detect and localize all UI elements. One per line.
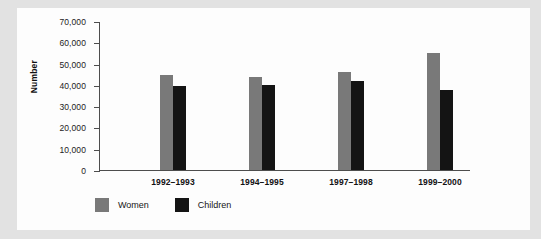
bar-group: 1992–1993 [160,21,186,170]
bar-chart: Number 70,000 60,000 50,000 40,000 [17,8,530,230]
bar-children-1997-1998[interactable] [351,81,364,170]
y-axis-title: Number [29,60,43,93]
bar-women-1997-1998[interactable] [338,72,351,170]
y-tick-label: 30,000 [59,102,86,112]
bar-children-1999-2000[interactable] [440,90,453,170]
legend-label-children: Children [198,200,232,210]
figure-page: Number 70,000 60,000 50,000 40,000 [0,0,541,239]
y-axis-line [99,22,100,171]
x-axis-line [99,170,470,171]
y-tick-label: 70,000 [59,17,86,27]
y-tick: 10,000 [94,150,100,151]
legend-item-children: Children [175,198,232,212]
bar-group: 1994–1995 [249,21,275,170]
bar-women-1992-1993[interactable] [160,75,173,170]
bar-group: 1999–2000 [427,21,453,170]
bar-women-1994-1995[interactable] [249,77,262,170]
figure-plate: Number 70,000 60,000 50,000 40,000 [17,8,530,230]
legend-swatch-women [95,198,109,212]
legend-item-women: Women [95,198,149,212]
y-tick-label: 20,000 [59,123,86,133]
y-tick-label: 50,000 [59,60,86,70]
y-tick: 20,000 [94,128,100,129]
y-tick: 70,000 [94,22,100,23]
y-tick: 0 [94,171,100,172]
y-tick-label: 10,000 [59,145,86,155]
x-tick-label: 1994–1995 [240,177,283,187]
x-tick-label: 1997–1998 [329,177,372,187]
legend-label-women: Women [118,200,149,210]
x-tick-label: 1999–2000 [418,177,461,187]
bar-women-1999-2000[interactable] [427,53,440,170]
y-tick: 50,000 [94,65,100,66]
bar-group: 1997–1998 [338,21,364,170]
x-tick-label: 1992–1993 [151,177,194,187]
plot-area: 70,000 60,000 50,000 40,000 30,000 20,00… [99,22,470,171]
bar-children-1994-1995[interactable] [262,85,275,170]
y-tick-label: 40,000 [59,81,86,91]
y-tick: 60,000 [94,43,100,44]
bar-children-1992-1993[interactable] [173,86,186,170]
legend-swatch-children [175,198,189,212]
y-tick: 40,000 [94,86,100,87]
chart-legend: Women Children [95,198,231,212]
y-tick-label: 60,000 [59,38,86,48]
y-tick: 30,000 [94,107,100,108]
y-tick-label: 0 [81,166,86,176]
